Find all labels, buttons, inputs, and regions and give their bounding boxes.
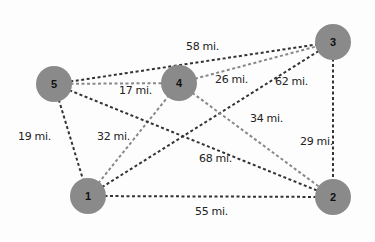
node-2[interactable]: 2 [315, 179, 351, 215]
edge-label-4-2: 34 mi. [250, 112, 283, 125]
node-1[interactable]: 1 [70, 178, 106, 214]
edge-label-1-3: 62 mi. [275, 75, 308, 88]
edge-label-1-4: 32 mi. [97, 130, 130, 143]
node-3[interactable]: 3 [315, 24, 351, 60]
edge-label-1-2: 55 mi. [195, 205, 228, 218]
node-4[interactable]: 4 [161, 65, 197, 101]
edge-label-5-2: 68 mi. [199, 152, 232, 165]
edge-label-5-3: 58 mi. [186, 40, 219, 53]
edge-label-3-2: 29 mi. [300, 135, 333, 148]
distance-graph: 58 mi. 17 mi. 26 mi. 62 mi. 19 mi. 32 mi… [0, 0, 375, 242]
edge-label-5-1: 19 mi. [18, 130, 51, 143]
edge-1-2 [88, 196, 333, 197]
node-5[interactable]: 5 [36, 66, 72, 102]
edge-label-5-4: 17 mi. [119, 84, 152, 97]
edge-1-3 [88, 42, 333, 196]
edge-label-4-3: 26 mi. [215, 73, 248, 86]
